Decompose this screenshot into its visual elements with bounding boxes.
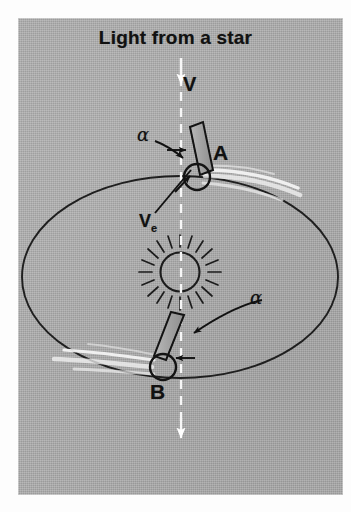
earth-velocity-subscript: e — [151, 222, 157, 234]
telescope-a — [190, 122, 213, 175]
figure-title: Light from a star — [0, 28, 351, 47]
aberration-angle-a-label: α — [137, 126, 149, 144]
position-a-label: A — [213, 142, 228, 163]
position-b-label: B — [150, 381, 165, 402]
earth-velocity-symbol: V — [139, 211, 151, 231]
aberration-angle-b-label: α — [250, 289, 262, 307]
figure-page: Light from a star V A B Ve α α — [0, 0, 351, 512]
earth-velocity-label: Ve — [139, 212, 157, 234]
aberration-diagram — [0, 0, 351, 512]
telescope-b — [154, 312, 184, 360]
velocity-arrow-a — [175, 176, 190, 192]
motion-streaks-a — [203, 166, 300, 200]
starlight-velocity-label: V — [183, 74, 196, 94]
